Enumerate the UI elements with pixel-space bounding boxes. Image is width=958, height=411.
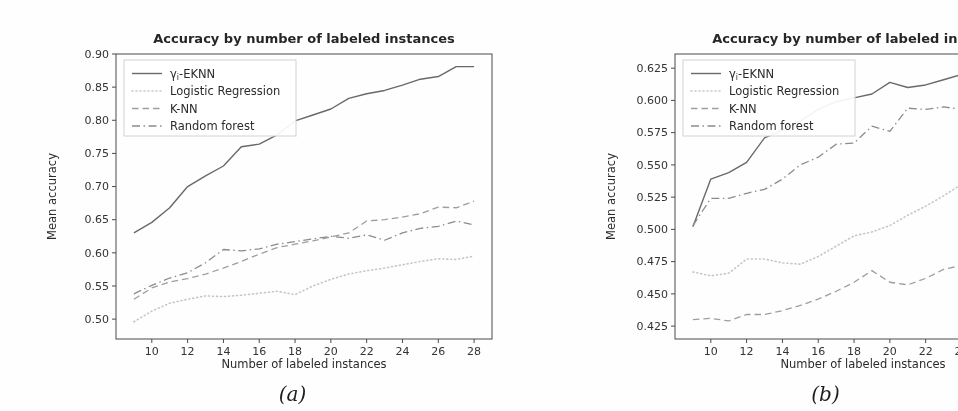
- x-tick-label: 18: [288, 345, 302, 358]
- chart-panel-b: Accuracy by number of labeled instances1…: [599, 16, 958, 411]
- x-tick-label: 12: [740, 345, 754, 358]
- x-tick-label: 22: [919, 345, 933, 358]
- x-tick-label: 14: [775, 345, 789, 358]
- x-axis-label: Number of labeled instances: [221, 357, 386, 371]
- y-tick-label: 0.90: [85, 48, 110, 61]
- y-tick-label: 0.70: [85, 180, 110, 193]
- x-tick-label: 20: [883, 345, 897, 358]
- legend-label: Random forest: [729, 119, 814, 133]
- y-tick-label: 0.50: [85, 313, 110, 326]
- y-tick-label: 0.500: [637, 223, 669, 236]
- x-tick-label: 28: [467, 345, 481, 358]
- y-tick-label: 0.600: [637, 94, 669, 107]
- x-tick-label: 12: [181, 345, 195, 358]
- x-tick-label: 26: [431, 345, 445, 358]
- chart-a-caption: (a): [53, 382, 532, 406]
- y-tick-label: 0.65: [85, 213, 110, 226]
- chart-panel-a: Accuracy by number of labeled instances1…: [40, 16, 519, 411]
- y-axis-label: Mean accuracy: [45, 153, 59, 240]
- legend-label: γi-EKNN: [729, 67, 774, 82]
- x-tick-label: 18: [847, 345, 861, 358]
- x-tick-label: 10: [145, 345, 159, 358]
- chart-b-canvas: Accuracy by number of labeled instances1…: [599, 16, 958, 381]
- chart-a-canvas: Accuracy by number of labeled instances1…: [40, 16, 519, 381]
- x-axis-label: Number of labeled instances: [780, 357, 945, 371]
- y-axis: 0.4250.4500.4750.5000.5250.5500.5750.600…: [637, 62, 676, 333]
- x-tick-label: 16: [811, 345, 825, 358]
- x-axis: 10121416182022242628: [704, 339, 958, 358]
- x-tick-label: 16: [252, 345, 266, 358]
- x-tick-label: 24: [395, 345, 409, 358]
- y-tick-label: 0.80: [85, 114, 110, 127]
- chart-title: Accuracy by number of labeled instances: [153, 31, 455, 46]
- y-tick-label: 0.55: [85, 280, 110, 293]
- legend-label: K-NN: [729, 102, 757, 116]
- y-axis-label: Mean accuracy: [604, 153, 618, 240]
- x-tick-label: 24: [954, 345, 958, 358]
- legend-label: Logistic Regression: [729, 84, 839, 98]
- legend-label: Logistic Regression: [170, 84, 280, 98]
- figure-page: Accuracy by number of labeled instances1…: [0, 0, 958, 411]
- x-tick-label: 10: [704, 345, 718, 358]
- legend-label: Random forest: [170, 119, 255, 133]
- y-tick-label: 0.85: [85, 81, 110, 94]
- y-tick-label: 0.525: [637, 191, 669, 204]
- y-tick-label: 0.425: [637, 320, 669, 333]
- y-tick-label: 0.550: [637, 159, 669, 172]
- y-tick-label: 0.475: [637, 255, 669, 268]
- chart-b-caption: (b): [586, 382, 958, 406]
- series-line-2: [693, 238, 958, 321]
- series-line-2: [134, 201, 474, 299]
- series-line-1: [693, 164, 958, 276]
- y-tick-label: 0.60: [85, 247, 110, 260]
- x-tick-label: 22: [360, 345, 374, 358]
- y-tick-label: 0.75: [85, 147, 110, 160]
- series-line-3: [134, 221, 474, 294]
- x-tick-label: 20: [324, 345, 338, 358]
- y-tick-label: 0.450: [637, 288, 669, 301]
- legend: γi-EKNNLogistic RegressionK-NNRandom for…: [683, 60, 855, 136]
- x-axis: 10121416182022242628: [145, 339, 481, 358]
- y-tick-label: 0.575: [637, 126, 669, 139]
- series-line-1: [134, 256, 474, 322]
- chart-title: Accuracy by number of labeled instances: [712, 31, 958, 46]
- legend-label: γi-EKNN: [170, 67, 215, 82]
- y-axis: 0.500.550.600.650.700.750.800.850.90: [85, 48, 117, 326]
- legend-label: K-NN: [170, 102, 198, 116]
- y-tick-label: 0.625: [637, 62, 669, 75]
- legend: γi-EKNNLogistic RegressionK-NNRandom for…: [124, 60, 296, 136]
- x-tick-label: 14: [216, 345, 230, 358]
